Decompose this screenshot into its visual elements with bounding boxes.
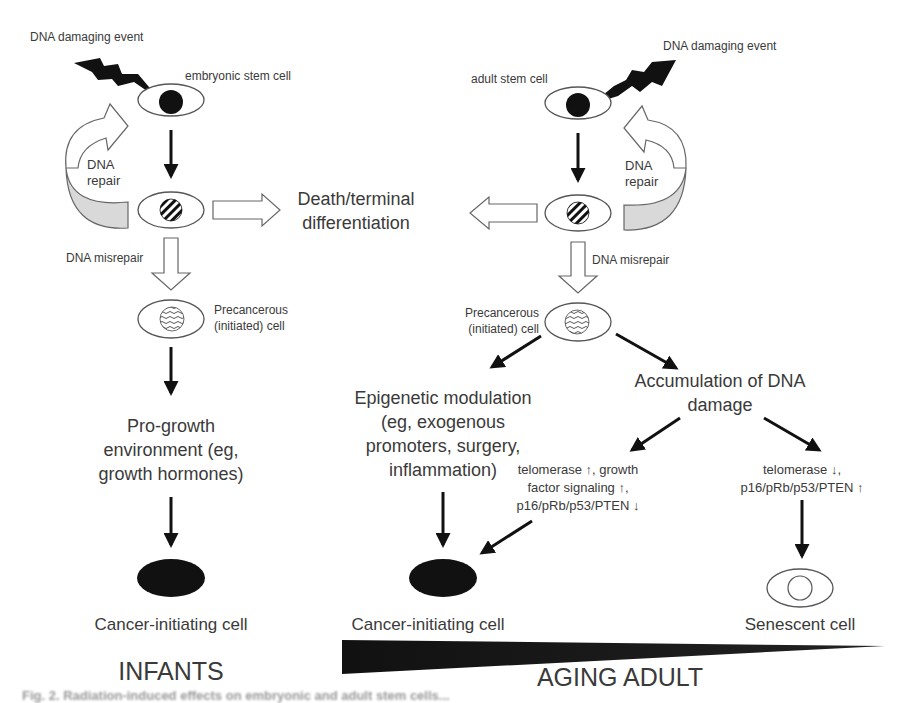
arrow-to-cancer-branch [632,418,680,450]
damaged-nucleus [160,199,182,221]
arrow-to-cancer-cell [482,521,532,553]
stem-cell-nucleus [159,90,183,114]
left-precancerous-label-2: (initiated) cell [214,319,285,333]
accumulation-label-2: damage [687,395,752,415]
figure-canvas: DNA damaging event embryonic stem cell D… [0,0,905,703]
cancer-branch-label-1: telomerase ↑, growth [518,462,639,477]
center-panel: Death/terminal differentiation [297,189,414,233]
epigenetic-label-3: promoters, surgery, [366,436,521,456]
cancer-branch-label-3: p16/pRb/p53/PTEN ↓ [517,498,640,513]
left-repair-label-2: repair [87,173,121,188]
right-cancer-initiating-cell [409,559,477,597]
stem-cell-nucleus [566,93,590,117]
left-precancerous-label-1: Precancerous [214,303,288,317]
misrepair-arrow [559,242,597,293]
senescent-nucleus [788,576,812,600]
pro-growth-label-2: environment (eg, [103,440,238,460]
pro-growth-label-3: growth hormones) [98,464,243,484]
cancer-branch-label-2: factor signaling ↑, [527,480,628,495]
arrow-to-accumulation [616,334,676,368]
left-panel: DNA damaging event embryonic stem cell D… [30,30,291,685]
epigenetic-label-1: Epigenetic modulation [354,388,531,408]
epigenetic-label-2: (eg, exogenous [381,412,505,432]
senescence-branch-label-1: telomerase ↓, [763,462,841,477]
death-label-2: differentiation [302,213,410,233]
death-label-1: Death/terminal [297,189,414,209]
precancerous-nucleus [565,310,589,334]
aging-adult-label: AGING ADULT [537,663,703,691]
left-damaging-event-label: DNA damaging event [30,30,144,44]
arrow-to-senescence-branch [764,418,819,450]
left-cancer-initiating-cell [137,559,205,597]
right-repair-label-2: repair [625,174,659,189]
embryonic-stem-cell-label: embryonic stem cell [185,69,291,83]
right-cancer-label: Cancer-initiating cell [351,615,504,634]
right-misrepair-label: DNA misrepair [592,253,669,267]
right-panel: DNA damaging event adult stem cell DNA r… [342,39,885,691]
misrepair-arrow [152,238,190,290]
damaged-nucleus [567,202,589,224]
precancerous-nucleus [160,307,184,331]
left-repair-label-1: DNA [87,157,115,172]
right-precancerous-label-1: Precancerous [465,306,539,320]
figure-caption: Fig. 2. Radiation-induced effects on emb… [22,688,450,703]
adult-stem-cell-label: adult stem cell [471,72,548,86]
right-precancerous-label-2: (initiated) cell [468,322,539,336]
right-repair-label-1: DNA [625,158,653,173]
arrow-to-epigenetic [492,336,541,367]
right-damaging-event-label: DNA damaging event [663,39,777,53]
infants-label: INFANTS [118,657,224,685]
pro-growth-label-1: Pro-growth [127,416,215,436]
left-cancer-label: Cancer-initiating cell [94,615,247,634]
senescence-branch-label-2: p16/pRb/p53/PTEN ↑ [741,480,864,495]
left-misrepair-label: DNA misrepair [66,251,143,265]
epigenetic-label-4: inflammation) [389,460,497,480]
arrow-to-death [470,197,537,229]
arrow-to-death [213,194,280,226]
accumulation-label-1: Accumulation of DNA [634,371,805,391]
senescent-label: Senescent cell [745,615,856,634]
